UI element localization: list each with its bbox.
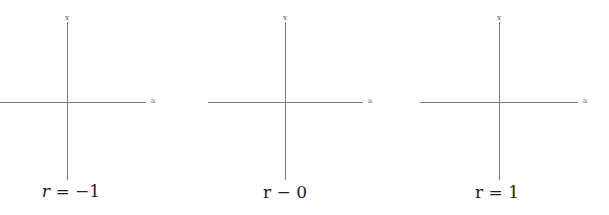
caption-value: − 0	[271, 182, 307, 202]
horizontal-axis	[208, 102, 363, 103]
vertical-axis	[67, 22, 68, 180]
caption-value: = −1	[50, 181, 100, 201]
vertical-axis-label: x	[65, 14, 69, 22]
panel-caption: r = −1	[42, 181, 100, 201]
caption-variable: r	[42, 181, 50, 201]
caption-variable: r	[475, 182, 483, 202]
vertical-axis-label: x	[497, 14, 501, 22]
vertical-axis	[499, 22, 500, 180]
horizontal-axis	[420, 102, 578, 103]
horizontal-axis	[0, 102, 146, 103]
panel-caption: r = 1	[475, 182, 519, 202]
panel-r-0: x a r − 0	[200, 0, 400, 215]
caption-variable: r	[263, 182, 271, 202]
vertical-axis	[285, 22, 286, 180]
panel-r-1: x a r = 1	[400, 0, 609, 215]
panel-r-minus-1: x a r = −1	[0, 0, 200, 215]
horizontal-axis-label: a	[151, 97, 155, 105]
horizontal-axis-label: a	[583, 97, 587, 105]
caption-value: = 1	[483, 182, 519, 202]
vertical-axis-label: x	[283, 14, 287, 22]
horizontal-axis-label: a	[368, 97, 372, 105]
panel-caption: r − 0	[263, 182, 307, 202]
